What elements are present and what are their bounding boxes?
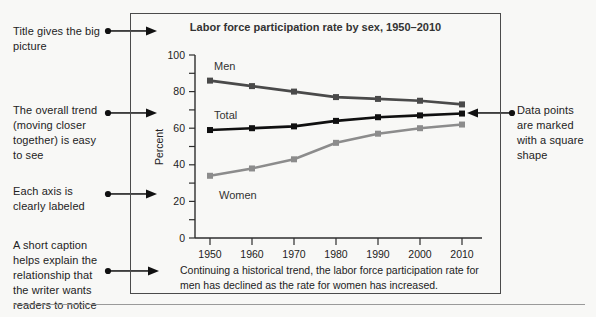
svg-text:1960: 1960 [240,248,264,260]
svg-text:1970: 1970 [282,248,306,260]
divider-rule [14,304,585,305]
annotation-axes: Each axis isclearly labeled [13,184,117,214]
svg-text:0: 0 [179,232,185,244]
svg-text:Total: Total [214,109,237,121]
chart-caption-line1: Continuing a historical trend, the labor… [180,263,490,278]
svg-text:80: 80 [173,85,185,97]
annotation-data-points: Data pointsare markedwith a squareshape [517,103,595,163]
svg-text:20: 20 [173,195,185,207]
svg-text:2000: 2000 [408,248,432,260]
svg-text:60: 60 [173,122,185,134]
svg-text:Men: Men [214,60,235,72]
svg-text:2010: 2010 [450,248,474,260]
svg-text:1950: 1950 [198,248,222,260]
y-axis-label: Percent [153,129,165,165]
svg-text:1990: 1990 [366,248,390,260]
chart-caption: Continuing a historical trend, the labor… [180,263,490,293]
line-chart: 0204060801001950196019701980199020002010… [130,13,501,294]
chart-caption-line2: men has declined as the rate for women h… [180,278,490,293]
svg-text:Women: Women [219,189,257,201]
svg-text:40: 40 [173,158,185,170]
svg-text:1980: 1980 [324,248,348,260]
svg-text:100: 100 [167,49,185,61]
page: Title gives the bigpicture The overall t… [0,0,596,317]
annotation-trend: The overall trend(moving closertogether)… [13,103,117,163]
annotation-title: Title gives the bigpicture [13,24,117,54]
